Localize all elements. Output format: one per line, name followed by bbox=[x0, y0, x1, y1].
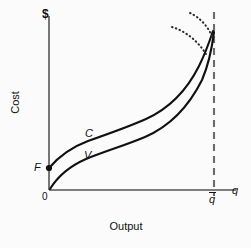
capacity-output-letter: q bbox=[209, 193, 215, 205]
fixed-cost-label: F bbox=[34, 162, 41, 173]
fixed-cost-marker-dot bbox=[46, 165, 52, 171]
x-axis-label: Output bbox=[81, 221, 171, 232]
plot-canvas bbox=[0, 0, 251, 248]
variable-cost-curve-label: V bbox=[84, 150, 91, 161]
cost-curve-figure: $ Cost Output F 0 C V q q bbox=[0, 0, 251, 248]
origin-label: 0 bbox=[42, 192, 48, 202]
total-cost-dotted-extension bbox=[190, 13, 212, 36]
y-axis-unit-symbol: $ bbox=[42, 8, 49, 20]
y-axis-label: Cost bbox=[10, 79, 21, 127]
x-axis-variable-label: q bbox=[232, 185, 238, 196]
total-cost-curve-C bbox=[49, 31, 213, 168]
total-cost-curve-label: C bbox=[85, 128, 93, 139]
capacity-output-label: q bbox=[209, 192, 216, 205]
variable-cost-curve-V bbox=[50, 32, 214, 189]
variable-cost-dotted-extension bbox=[172, 27, 206, 54]
